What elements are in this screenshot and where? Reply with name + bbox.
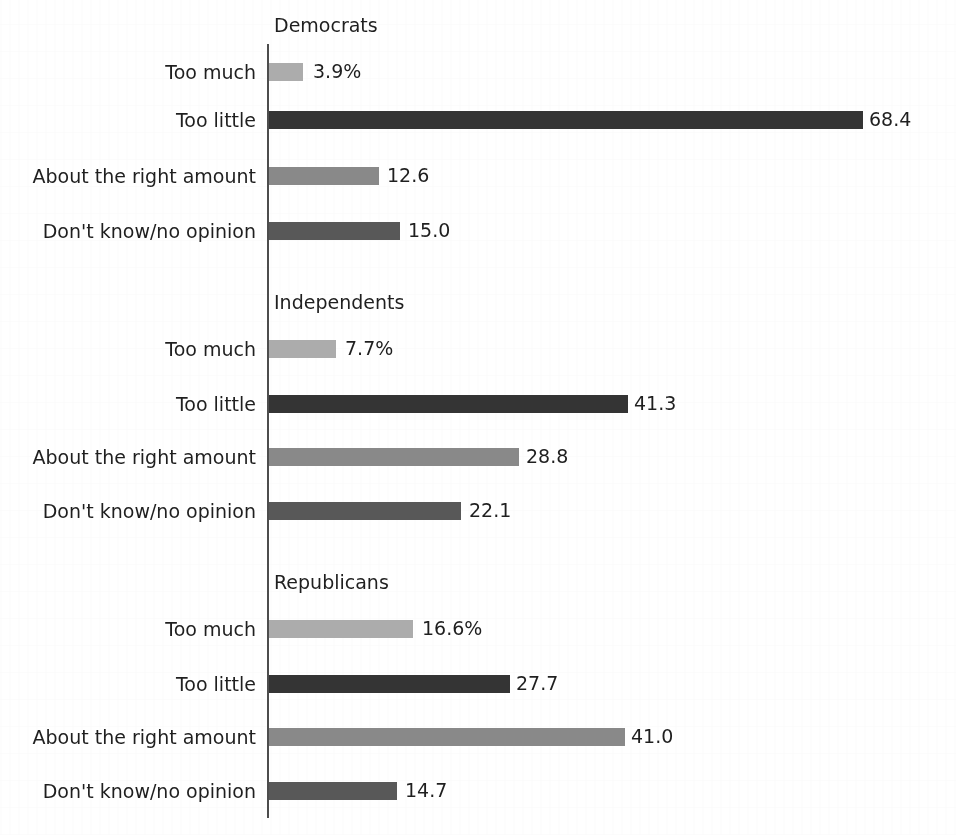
bar-too-little [269, 395, 628, 413]
bar-row-independents-about-right: About the right amount 28.8 [0, 448, 956, 466]
bar-too-little [269, 111, 863, 129]
bar-value-label: 41.3 [634, 392, 676, 414]
bar-row-democrats-too-little: Too little 68.4 [0, 111, 956, 129]
category-label: Too much [0, 61, 256, 83]
bar-about-right [269, 167, 379, 185]
bar-row-independents-dont-know: Don't know/no opinion 22.1 [0, 502, 956, 520]
bar-value-label: 15.0 [408, 219, 450, 241]
bar-value-label: 27.7 [516, 672, 558, 694]
category-label: Too much [0, 618, 256, 640]
bar-row-independents-too-little: Too little 41.3 [0, 395, 956, 413]
bar-value-label: 41.0 [631, 725, 673, 747]
category-label: Too little [0, 393, 256, 415]
category-label: Too much [0, 338, 256, 360]
category-label: Too little [0, 109, 256, 131]
category-label: Don't know/no opinion [0, 500, 256, 522]
bar-value-label: 12.6 [387, 164, 429, 186]
bar-too-little [269, 675, 510, 693]
bar-value-label: 22.1 [469, 499, 511, 521]
bar-row-democrats-about-right: About the right amount 12.6 [0, 167, 956, 185]
category-label: About the right amount [0, 446, 256, 468]
panel-title-republicans: Republicans [274, 571, 389, 593]
category-label: Don't know/no opinion [0, 780, 256, 802]
bar-row-democrats-too-much: Too much 3.9% [0, 63, 956, 81]
value-axis-spine [267, 44, 269, 818]
bar-value-label: 16.6% [422, 617, 482, 639]
bar-value-label: 3.9% [313, 60, 361, 82]
bar-row-democrats-dont-know: Don't know/no opinion 15.0 [0, 222, 956, 240]
bar-value-label: 28.8 [526, 445, 568, 467]
bar-about-right [269, 448, 519, 466]
bar-about-right [269, 728, 625, 746]
panel-title-democrats: Democrats [274, 14, 378, 36]
bar-row-republicans-too-much: Too much 16.6% [0, 620, 956, 638]
bar-dont-know [269, 502, 461, 520]
panel-title-independents: Independents [274, 291, 404, 313]
bar-value-label: 68.4 [869, 108, 911, 130]
bar-value-label: 7.7% [345, 337, 393, 359]
bar-row-republicans-about-right: About the right amount 41.0 [0, 728, 956, 746]
bar-dont-know [269, 222, 400, 240]
bar-row-republicans-too-little: Too little 27.7 [0, 675, 956, 693]
grouped-bar-chart: Democrats Too much 3.9% Too little 68.4 … [0, 0, 956, 835]
bar-value-label: 14.7 [405, 779, 447, 801]
bar-dont-know [269, 782, 397, 800]
bar-too-much [269, 620, 413, 638]
bar-row-republicans-dont-know: Don't know/no opinion 14.7 [0, 782, 956, 800]
bar-too-much [269, 63, 303, 81]
bar-too-much [269, 340, 336, 358]
category-label: About the right amount [0, 165, 256, 187]
category-label: About the right amount [0, 726, 256, 748]
category-label: Don't know/no opinion [0, 220, 256, 242]
category-label: Too little [0, 673, 256, 695]
bar-row-independents-too-much: Too much 7.7% [0, 340, 956, 358]
